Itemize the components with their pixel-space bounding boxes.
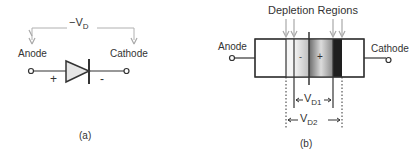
panel-b-junction [230,19,392,128]
minus-sign-a: - [100,73,104,85]
cathode-label-a: Cathode [110,49,148,59]
dark-depletion [333,39,342,77]
anode-terminal [29,69,34,74]
cathode-terminal-b [386,58,391,63]
caption-b: (b) [300,139,312,149]
anode-label-b: Anode [218,42,247,52]
diagram-canvas [0,0,420,157]
plus-sign-a: + [50,73,57,85]
anode-label-a: Anode [18,49,47,59]
voltage-bracket-right [97,28,134,40]
depletion-regions-title: Depletion Regions [268,5,358,16]
voltage-label-a: −VD [69,17,89,31]
minus-sign-b: - [299,53,302,62]
diode-triangle-icon [66,61,89,82]
cathode-label-b: Cathode [371,44,409,54]
voltage-bracket-left [32,28,67,40]
vd2-label: VD2 [300,113,318,127]
anode-terminal-b [230,56,235,61]
vd1-label: VD1 [304,93,322,107]
cathode-terminal [124,69,129,74]
plus-sign-b: + [317,52,323,62]
caption-a: (a) [79,131,91,141]
